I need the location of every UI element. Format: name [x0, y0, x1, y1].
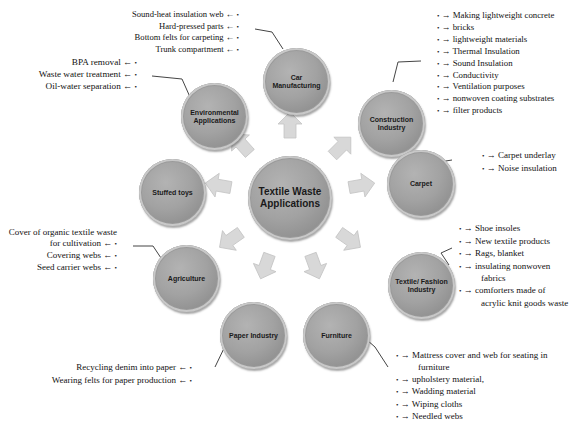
list-item: Waste water treatment ← •	[39, 69, 137, 81]
list-item: • → Conductivity	[437, 70, 572, 82]
arrow-down-left-icon	[249, 250, 280, 283]
node-label: Environmental Applications	[181, 109, 248, 125]
arrow-downleft-icon	[213, 223, 248, 258]
textile-waste-diagram: Textile Waste Applications Car Manufactu…	[0, 0, 572, 421]
node-furniture: Furniture	[303, 302, 370, 369]
list-item: • → New textile products	[459, 236, 572, 249]
node-carpet: Carpet	[387, 150, 455, 218]
list-item: • → Shoe insoles	[459, 223, 572, 236]
list-item: • → bricks	[437, 22, 572, 34]
list-environmental-applications: BPA removal ← • Waste water treatment ← …	[39, 57, 137, 93]
node-label: Textile/ Fashion Industry	[388, 278, 455, 294]
node-construction-industry: Construction Industry	[358, 90, 425, 157]
list-item: • → Thermal Insulation	[437, 46, 572, 58]
list-item: Bottom felts for carpeting ← •	[132, 32, 239, 44]
list-item: Seed carrier webs ← •	[5, 262, 117, 274]
list-item: Sound-heat insulation web ← •	[132, 9, 239, 21]
arrow-downright-icon	[332, 223, 367, 258]
node-textile-fashion-industry: Textile/ Fashion Industry	[388, 252, 455, 319]
list-furniture: • → Mattress cover and web for seating i…	[396, 350, 566, 421]
list-item: Trunk compartment ← •	[132, 44, 239, 56]
list-construction-industry: • → Making lightweight concrete • → bric…	[437, 10, 572, 117]
callout-car	[255, 29, 283, 49]
list-carpet: • → Carpet underlay • → Noise insulation	[482, 150, 572, 175]
callout-furniture	[367, 340, 388, 367]
list-item: Covering webs ← •	[5, 250, 117, 262]
center-node: Textile Waste Applications	[248, 156, 332, 240]
list-item: Wearing felts for paper production ← •	[52, 374, 192, 387]
list-item: • → Making lightweight concrete	[437, 10, 572, 22]
arrow-down-right-icon	[299, 250, 330, 283]
list-item: • → Noise insulation	[482, 163, 572, 176]
list-item: • → insulating nonwoven fabrics	[459, 261, 572, 285]
node-label: Car Manufacturing	[263, 74, 330, 90]
list-agriculture: Cover of organic textile waste for culti…	[5, 227, 117, 274]
list-item: • → nonwoven coating substrates	[437, 93, 572, 105]
list-item: • → Mattress cover and web for seating i…	[396, 350, 566, 374]
node-agriculture: Agriculture	[153, 245, 220, 312]
arrow-left-icon	[203, 171, 233, 199]
list-item: Hard-pressed parts ← •	[132, 21, 239, 33]
node-stuffed-toys: Stuffed toys	[139, 159, 206, 226]
list-item: • → Wiping cloths	[396, 399, 566, 411]
list-item: • → Wadding material	[396, 386, 566, 398]
list-item: BPA removal ← •	[39, 57, 137, 69]
center-label: Textile Waste Applications	[248, 186, 332, 210]
list-item: • → Sound Insulation	[437, 58, 572, 70]
list-item: Oil-water separation ← •	[39, 81, 137, 93]
list-item: • → filter products	[437, 105, 572, 117]
list-item: • → Carpet underlay	[482, 150, 572, 163]
node-car-manufacturing: Car Manufacturing	[263, 48, 330, 115]
list-item: • → Rags, blanket	[459, 248, 572, 261]
list-item: Recycling denim into paper ← •	[52, 361, 192, 374]
node-label: Furniture	[317, 332, 356, 340]
callout-agriculture	[133, 246, 161, 258]
node-environmental-applications: Environmental Applications	[181, 83, 248, 150]
list-paper-industry: Recycling denim into paper ← • Wearing f…	[52, 361, 192, 387]
list-item: • → Ventilation purposes	[437, 81, 572, 93]
node-label: Construction Industry	[358, 116, 425, 132]
list-car-manufacturing: Sound-heat insulation web ← • Hard-press…	[132, 9, 239, 55]
arrow-up-icon	[278, 112, 302, 138]
list-item: • → comforters made of acrylic knit good…	[459, 285, 572, 309]
arrow-upright-icon	[324, 129, 359, 164]
node-label: Paper Industry	[225, 332, 282, 340]
list-item: • → Needled webs	[396, 411, 566, 421]
node-paper-industry: Paper Industry	[220, 302, 287, 369]
list-textile-fashion-industry: • → Shoe insoles • → New textile product…	[459, 223, 572, 309]
list-item: • → lightweight materials	[437, 34, 572, 46]
node-label: Carpet	[406, 180, 436, 188]
node-label: Stuffed toys	[148, 189, 196, 197]
list-item: • → upholstery material,	[396, 374, 566, 386]
node-label: Agriculture	[164, 275, 209, 283]
callout-construction	[393, 61, 421, 82]
callout-environmental	[152, 76, 190, 97]
list-item: Cover of organic textile waste for culti…	[5, 227, 117, 250]
arrow-right-icon	[347, 171, 377, 199]
